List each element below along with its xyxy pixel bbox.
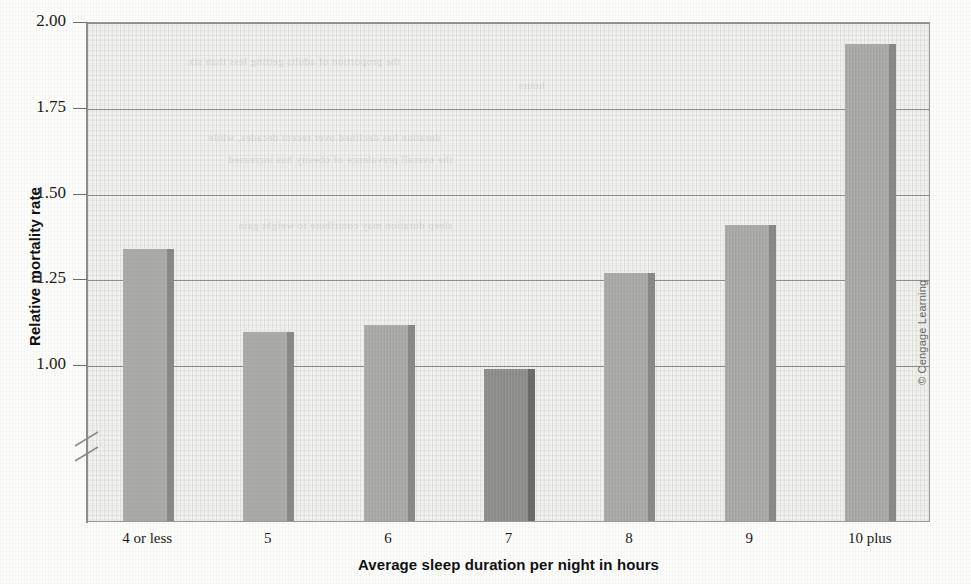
bar-texture (725, 225, 769, 521)
y-axis-tick (73, 279, 87, 280)
bar-face (484, 369, 528, 521)
gridline (88, 23, 929, 24)
bleed-text-line: the proportion of adults getting less th… (188, 55, 400, 67)
y-axis-tick (73, 365, 87, 366)
bar[interactable] (725, 225, 776, 521)
x-axis-title: Average sleep duration per night in hour… (87, 556, 930, 573)
bar-texture (364, 325, 408, 521)
x-axis-tick-label: 4 or less (87, 530, 207, 547)
bar[interactable] (845, 44, 896, 521)
bleed-text-line: sleep duration may contribute to weight … (238, 219, 452, 231)
copyright-credit: © Cengage Learning (916, 235, 928, 385)
bar-side-shadow (648, 273, 655, 521)
bar-face (364, 325, 408, 521)
bar-texture (845, 44, 889, 521)
bar[interactable] (123, 249, 174, 521)
bar-face (725, 225, 769, 521)
y-axis-tick-label: 2.00 (6, 11, 66, 31)
bar[interactable] (364, 325, 415, 521)
axis-break-icon (72, 428, 106, 466)
bar[interactable] (604, 273, 655, 521)
bar-face (604, 273, 648, 521)
y-axis-tick (73, 108, 87, 109)
bar-texture (484, 369, 528, 521)
bar-side-shadow (889, 44, 896, 521)
bar[interactable] (243, 332, 294, 521)
x-axis-tick-label: 9 (689, 530, 809, 547)
bar-face (123, 249, 167, 521)
y-axis-title: Relative mortality rate (26, 137, 43, 397)
bar-side-shadow (408, 325, 415, 521)
x-axis-tick-label: 10 plus (810, 530, 930, 547)
bleed-text-line: duration has declined over recent decade… (208, 131, 441, 143)
plot-area: the proportion of adults getting less th… (87, 22, 930, 522)
bar-side-shadow (528, 369, 535, 521)
bar-texture (604, 273, 648, 521)
x-axis-tick-label: 6 (328, 530, 448, 547)
x-axis-tick-label: 5 (208, 530, 328, 547)
figure-container: the proportion of adults getting less th… (0, 0, 971, 584)
bar-side-shadow (287, 332, 294, 521)
y-axis-tick (73, 194, 87, 195)
y-axis-tick-label: 1.75 (6, 97, 66, 117)
bar[interactable] (484, 369, 535, 521)
bar-face (243, 332, 287, 521)
gridline (88, 366, 929, 367)
x-axis-tick-label: 7 (449, 530, 569, 547)
bleed-text-line: hours (518, 79, 544, 91)
gridline (88, 280, 929, 281)
y-axis-tick (73, 22, 87, 23)
bar-side-shadow (167, 249, 174, 521)
bleed-text-line: the overall prevalence of obesity has in… (228, 153, 452, 165)
bar-face (845, 44, 889, 521)
gridline (88, 109, 929, 110)
bar-texture (123, 249, 167, 521)
bar-side-shadow (769, 225, 776, 521)
gridline (88, 195, 929, 196)
x-axis-tick-label: 8 (569, 530, 689, 547)
bar-texture (243, 332, 287, 521)
